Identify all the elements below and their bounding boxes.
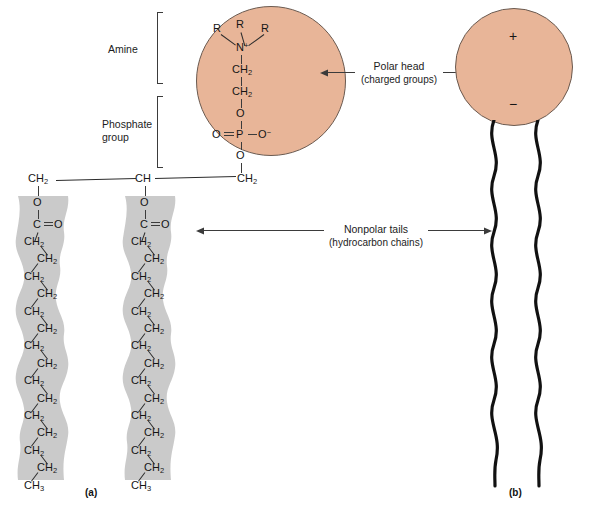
polar-head-label-line1: Polar head bbox=[355, 60, 443, 73]
nitrogen-atom: N+ bbox=[236, 41, 249, 53]
glycerol-c2: CH bbox=[135, 172, 151, 184]
phosphoester-o-top: O bbox=[236, 107, 245, 119]
head-ch2-upper: CH2 bbox=[232, 63, 252, 77]
ch2-unit: CH2 bbox=[144, 357, 164, 371]
nonpolar-tails-label-line2: (hydrocarbon chains) bbox=[324, 236, 428, 249]
nonpolar-tails-label: Nonpolar tails (hydrocarbon chains) bbox=[324, 223, 428, 249]
bond-c1-c2 bbox=[56, 178, 136, 181]
polar-head-line-left bbox=[327, 72, 355, 73]
phosphorus-atom: P bbox=[236, 128, 243, 140]
ester-right-double-lower bbox=[151, 225, 160, 226]
ch2-unit: CH2 bbox=[144, 252, 164, 266]
figure-canvas: R R R N+ CH2 CH2 O O P O− O Amine Phosph… bbox=[0, 0, 608, 516]
phosphate-double-bond-upper bbox=[224, 132, 234, 133]
ester-right-c: C bbox=[140, 218, 148, 230]
glycerol-c3: CH2 bbox=[237, 172, 257, 186]
nonpolar-line-left bbox=[203, 230, 324, 231]
head-ch2-lower: CH2 bbox=[232, 85, 252, 99]
schematic-tails bbox=[480, 120, 560, 488]
phosphate-label-line1: Phosphate bbox=[102, 118, 152, 130]
ch2-unit: CH2 bbox=[37, 392, 57, 406]
ch2-unit: CH2 bbox=[144, 287, 164, 301]
phosphate-single-bond bbox=[248, 134, 257, 135]
ester-left-o: O bbox=[33, 196, 42, 208]
ester-left-double-upper bbox=[44, 222, 53, 223]
amine-label: Amine bbox=[108, 43, 138, 55]
phosphate-double-bond-lower bbox=[224, 135, 234, 136]
ch2-unit: CH2 bbox=[37, 461, 57, 475]
charge-plus-label: + bbox=[509, 28, 517, 44]
ester-left-o-double: O bbox=[54, 218, 63, 230]
ester-right-o-double: O bbox=[161, 218, 170, 230]
phosphate-o-double: O bbox=[212, 128, 221, 140]
ch2-unit: CH2 bbox=[37, 252, 57, 266]
ch3-terminal: CH3 bbox=[131, 479, 151, 493]
ch2-unit: CH2 bbox=[144, 426, 164, 440]
polar-head-label: Polar head (charged groups) bbox=[355, 60, 443, 86]
nonpolar-tails-label-line1: Nonpolar tails bbox=[324, 223, 428, 236]
phosphate-bracket bbox=[157, 96, 163, 168]
ester-left-c: C bbox=[33, 218, 41, 230]
ch2-unit: CH2 bbox=[37, 426, 57, 440]
amine-bracket bbox=[157, 12, 163, 84]
panel-a-id: (a) bbox=[85, 487, 97, 498]
bond-c1-o bbox=[38, 186, 39, 196]
phosphoester-o-bottom: O bbox=[236, 149, 245, 161]
charge-minus-label: − bbox=[509, 96, 517, 112]
ch2-unit: CH2 bbox=[37, 322, 57, 336]
bond-c2-o bbox=[145, 186, 146, 196]
ch2-unit: CH2 bbox=[144, 461, 164, 475]
ester-right-o: O bbox=[140, 196, 149, 208]
ch2-unit: CH2 bbox=[37, 287, 57, 301]
polar-head-arrow-left-icon bbox=[320, 67, 336, 79]
ch2-unit: CH2 bbox=[37, 357, 57, 371]
bond-c2-c3 bbox=[155, 176, 236, 179]
ester-right-double-upper bbox=[151, 222, 160, 223]
r-group-left: R bbox=[213, 22, 221, 34]
phosphate-label-line2: group bbox=[102, 131, 129, 143]
nonpolar-arrow-left-icon bbox=[196, 225, 212, 237]
ch3-terminal: CH3 bbox=[24, 479, 44, 493]
r-group-right: R bbox=[261, 22, 269, 34]
panel-b-id: (b) bbox=[509, 487, 522, 498]
phosphate-o-minus: O− bbox=[258, 128, 271, 140]
ch2-unit: CH2 bbox=[144, 322, 164, 336]
glycerol-c1: CH2 bbox=[28, 172, 48, 186]
polar-head-label-line2: (charged groups) bbox=[355, 73, 443, 86]
r-group-middle: R bbox=[236, 18, 244, 30]
ch2-unit: CH2 bbox=[144, 392, 164, 406]
ester-left-double-lower bbox=[44, 225, 53, 226]
